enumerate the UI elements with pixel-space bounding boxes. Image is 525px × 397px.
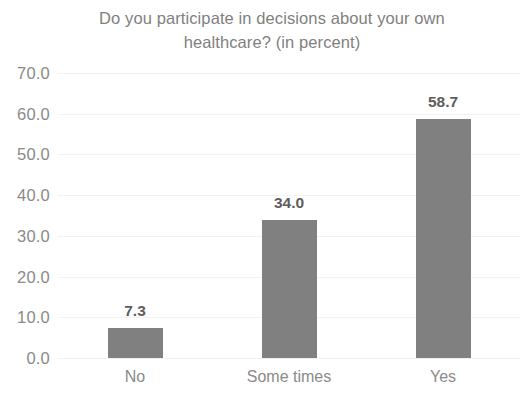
chart-title: Do you participate in decisions about yo…	[52, 6, 492, 54]
y-tick-label: 20.0	[0, 268, 50, 286]
bar-value-label: 34.0	[274, 194, 304, 212]
y-tick-label: 40.0	[0, 186, 50, 204]
y-tick-label: 70.0	[0, 64, 50, 82]
y-tick-label: 10.0	[0, 308, 50, 326]
gridline	[58, 114, 520, 115]
plot-area: 7.334.058.7	[58, 73, 520, 358]
chart-title-line-1: Do you participate in decisions about yo…	[99, 9, 445, 27]
bar-yes[interactable]	[416, 119, 471, 358]
bar-value-label: 58.7	[428, 93, 458, 111]
y-tick-label: 50.0	[0, 145, 50, 163]
x-axis: NoSome timesYes	[58, 366, 520, 394]
gridline	[58, 73, 520, 74]
y-tick-label: 30.0	[0, 227, 50, 245]
y-tick-label: 0.0	[0, 349, 50, 367]
y-tick-label: 60.0	[0, 105, 50, 123]
bar-chart: Do you participate in decisions about yo…	[0, 0, 525, 397]
gridline	[58, 358, 520, 359]
y-axis: 70.060.050.040.030.020.010.00.0	[0, 73, 50, 358]
x-tick-label: Some times	[247, 366, 331, 388]
bar-no[interactable]	[108, 328, 163, 358]
x-tick-label: No	[125, 366, 145, 388]
bar-value-label: 7.3	[124, 302, 146, 320]
chart-title-line-2: healthcare? (in percent)	[184, 33, 361, 51]
bar-some-times[interactable]	[262, 220, 317, 358]
x-tick-label: Yes	[430, 366, 456, 388]
